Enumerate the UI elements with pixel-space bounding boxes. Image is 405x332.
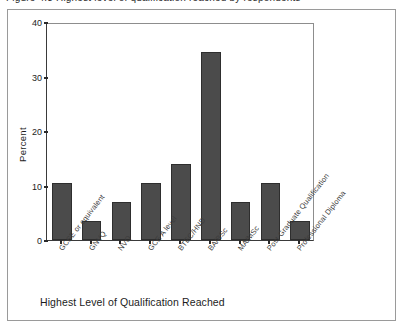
y-tick-label: 0 xyxy=(22,236,42,246)
y-tick-mark xyxy=(44,77,48,79)
bar xyxy=(171,164,191,240)
figure-caption: Figure 4.3 Highest level of qualificatio… xyxy=(6,0,301,3)
bar xyxy=(112,202,132,240)
bar xyxy=(290,221,310,240)
x-tick-mark xyxy=(298,240,300,244)
bar xyxy=(52,183,72,240)
x-tick-mark xyxy=(119,240,121,244)
y-tick-mark xyxy=(44,131,48,133)
x-tick-mark xyxy=(60,240,62,244)
cropped-caption-strip: Figure 4.3 Highest level of qualificatio… xyxy=(0,0,405,9)
y-tick-mark xyxy=(44,22,48,24)
bar xyxy=(82,221,102,240)
y-tick-mark xyxy=(44,240,48,242)
y-tick-label: 20 xyxy=(22,127,42,137)
x-tick-mark xyxy=(209,240,211,244)
figure-border: Percent 010203040 GCSE or equivalentGNVQ… xyxy=(7,9,396,321)
y-tick-label: 30 xyxy=(22,73,42,83)
y-tick-label: 10 xyxy=(22,182,42,192)
x-tick-mark xyxy=(179,240,181,244)
x-tick-mark xyxy=(239,240,241,244)
x-tick-mark xyxy=(90,240,92,244)
bar xyxy=(141,183,161,240)
x-axis-title: Highest Level of Qualification Reached xyxy=(40,296,225,308)
y-tick-mark xyxy=(44,186,48,188)
y-tick-label: 40 xyxy=(22,18,42,28)
bar xyxy=(201,52,221,240)
plot-area xyxy=(46,23,314,241)
bar xyxy=(261,183,281,240)
x-tick-mark xyxy=(268,240,270,244)
bars-layer xyxy=(47,24,313,240)
bar xyxy=(231,202,251,240)
x-tick-mark xyxy=(149,240,151,244)
figure-page: Figure 4.3 Highest level of qualificatio… xyxy=(0,0,405,332)
